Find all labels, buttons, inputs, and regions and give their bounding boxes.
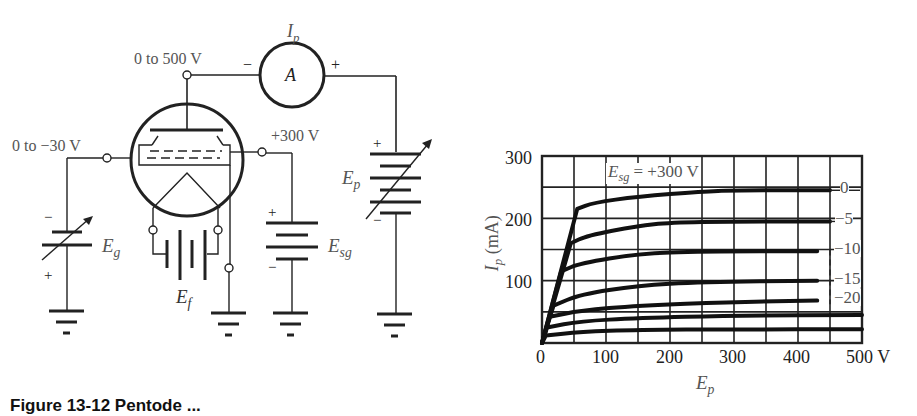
y-tick-300: 300 (505, 149, 532, 167)
x-tick-0: 0 (536, 348, 545, 366)
figure-caption: Figure 13-12 Pentode ... (10, 396, 201, 416)
x-tick-200: 200 (656, 348, 683, 366)
curve-label-minus10: −10 (834, 240, 861, 257)
x-tick-300: 300 (719, 348, 746, 366)
x-axis-label: Ep (696, 373, 714, 396)
curve-label-minus15: −15 (834, 270, 861, 287)
y-tick-200: 200 (505, 211, 532, 229)
y-axis-label: Ip (mA) (483, 208, 505, 278)
curve-label-0: 0 (840, 179, 849, 196)
y-tick-100: 100 (505, 273, 532, 291)
screen-voltage-annotation: Esg = +300 V (606, 163, 701, 184)
x-tick-500: 500 V (846, 348, 890, 366)
curve-label-minus20: −20 (834, 289, 861, 306)
curve-label-minus5: −5 (835, 210, 853, 227)
x-tick-400: 400 (783, 348, 810, 366)
x-tick-100: 100 (592, 348, 619, 366)
